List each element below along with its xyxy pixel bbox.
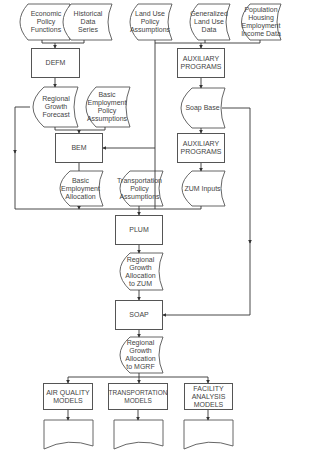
economic-policy-functions-label: Economic Policy Functions <box>31 10 62 34</box>
auxiliary-programs-box-2: AUXILIARY PROGRAMS <box>177 133 225 163</box>
air-quality-models-box: AIR QUALITY MODELS <box>43 383 93 410</box>
defm-label: DEFM <box>46 59 66 67</box>
transportation-models-label: TRANSPORTATION MODELS <box>109 389 168 405</box>
population-data-label: Population Housing Employment Income Dat… <box>241 6 281 38</box>
generalized-land-use-label: Generalized Land Use Data <box>190 10 228 34</box>
bem-box: BEM <box>55 133 103 163</box>
land-use-policy-label: Land Use Policy Assumptions <box>130 10 170 34</box>
basic-employment-policy-label: Basic Employment Policy Assumptions <box>87 91 127 123</box>
auxiliary-programs-1-label: AUXILIARY PROGRAMS <box>181 55 222 71</box>
economic-policy-functions: Economic Policy Functions <box>22 4 70 40</box>
basic-employment-allocation: Basic Employment Allocation <box>58 171 103 206</box>
historical-data-series-label: Historical Data Series <box>74 10 103 34</box>
regional-growth-forecast-label: Regional Growth Forecast <box>42 95 70 119</box>
output-document-1 <box>44 420 93 449</box>
plum-box: PLUM <box>115 215 163 245</box>
defm-box: DEFM <box>31 48 80 78</box>
transportation-policy-label: Transportation Policy Assumptions <box>117 177 162 201</box>
transportation-models-box: TRANSPORTATION MODELS <box>108 383 168 410</box>
transportation-policy-assumptions: Transportation Policy Assumptions <box>116 171 163 206</box>
soap-box: SOAP <box>115 300 163 330</box>
zum-inputs-label: ZUM Inputs <box>184 185 220 193</box>
rga-mgrf-label: Regional Growth Allocation to MGRF <box>125 339 155 371</box>
soap-base: Soap Base <box>180 88 225 128</box>
plum-label: PLUM <box>129 226 148 234</box>
population-housing-employment-income-data: Population Housing Employment Income Dat… <box>238 4 284 40</box>
soap-label: SOAP <box>129 311 148 319</box>
regional-growth-forecast: Regional Growth Forecast <box>34 87 78 127</box>
generalized-land-use-data: Generalized Land Use Data <box>188 4 230 40</box>
facility-analysis-models-label: FACILITY ANALYSIS MODELS <box>192 385 226 409</box>
basic-employment-policy-assumptions: Basic Employment Policy Assumptions <box>84 87 130 127</box>
rga-zum-label: Regional Growth Allocation to ZUM <box>125 256 155 288</box>
facility-analysis-models-box: FACILITY ANALYSIS MODELS <box>184 383 233 410</box>
soap-base-label: Soap Base <box>185 104 219 112</box>
auxiliary-programs-2-label: AUXILIARY PROGRAMS <box>181 140 222 156</box>
basic-employment-allocation-label: Basic Employment Allocation <box>61 177 100 201</box>
regional-growth-allocation-to-zum: Regional Growth Allocation to ZUM <box>118 253 163 290</box>
output-document-2 <box>114 420 163 449</box>
zum-inputs: ZUM Inputs <box>180 171 225 206</box>
output-document-3 <box>184 420 233 449</box>
air-quality-models-label: AIR QUALITY MODELS <box>46 389 90 405</box>
land-use-policy-assumptions: Land Use Policy Assumptions <box>128 4 172 40</box>
regional-growth-allocation-to-mgrf: Regional Growth Allocation to MGRF <box>118 337 163 373</box>
bem-label: BEM <box>71 144 86 152</box>
historical-data-series: Historical Data Series <box>64 4 112 40</box>
auxiliary-programs-box-1: AUXILIARY PROGRAMS <box>177 48 225 78</box>
